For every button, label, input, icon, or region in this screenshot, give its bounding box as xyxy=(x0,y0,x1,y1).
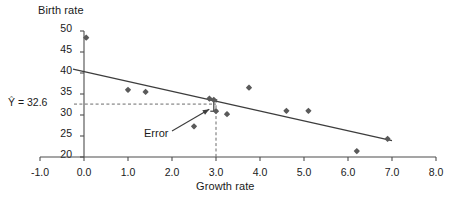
data-point xyxy=(224,111,230,117)
plot-canvas xyxy=(0,0,464,202)
data-point xyxy=(283,108,289,114)
data-point xyxy=(246,85,252,91)
error-arrow-group xyxy=(172,109,209,131)
regression-line-group xyxy=(73,69,392,140)
data-point xyxy=(385,136,391,142)
data-point xyxy=(125,87,131,93)
plot-graphic xyxy=(73,69,392,140)
scatter-plot-figure: Birth rate Growth rate 50 45 40 35 30 25… xyxy=(0,0,464,202)
data-point xyxy=(354,148,360,154)
data-point xyxy=(143,89,149,95)
data-point xyxy=(191,123,197,129)
data-points-group xyxy=(83,35,391,155)
data-point xyxy=(305,108,311,114)
plot-graphic xyxy=(202,109,209,115)
axes-lines xyxy=(40,31,436,161)
